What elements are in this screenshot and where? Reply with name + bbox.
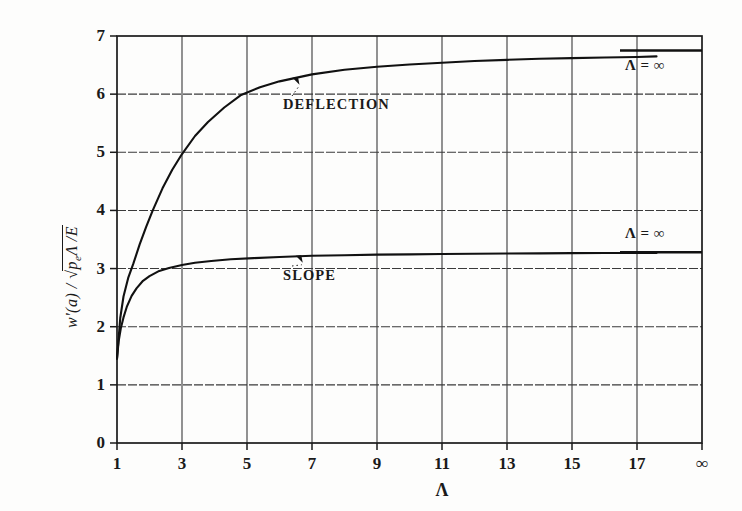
y-axis-ticks [110,36,117,443]
x-tick-label: ∞ [687,455,717,472]
radicand-p: p [63,261,80,270]
y-tick-label: 1 [83,376,105,393]
x-axis-title: Λ [412,480,472,501]
x-tick-label: 7 [297,455,327,472]
y-tick-label: 5 [83,143,105,160]
radicand-E: E [63,225,80,235]
y-tick-label: 2 [83,318,105,335]
y-tick-label: 4 [83,201,105,218]
horizontal-gridlines [117,94,702,385]
x-tick-label: 5 [232,455,262,472]
x-tick-label: 15 [557,455,587,472]
y-axis-radical-group: √peΛ /E [62,224,83,278]
x-tick-label: 11 [427,455,457,472]
radicand: peΛ /E [62,224,83,270]
x-tick-label: 17 [622,455,652,472]
asymptote-label-slope: Λ = ∞ [625,225,665,242]
vertical-gridlines [182,36,637,443]
figure-container: 01234567 1357911131517∞ Λ w'(a) / √peΛ /… [0,0,742,511]
x-tick-label: 3 [167,455,197,472]
y-tick-label: 3 [83,260,105,277]
asymptote-label-deflection: Λ = ∞ [625,57,665,74]
series-label-deflection: DEFLECTION [283,96,390,113]
x-axis-ticks [117,443,702,450]
x-tick-label: 9 [362,455,392,472]
x-tick-label: 1 [102,455,132,472]
y-tick-label: 6 [83,85,105,102]
leader-line [292,265,302,266]
series-label-slope: SLOPE [283,267,336,284]
x-tick-label: 13 [492,455,522,472]
y-tick-label: 0 [83,434,105,451]
y-axis-numerator: w'(a) [63,292,80,327]
chart-plot-area [0,0,742,511]
y-axis-slash: / [63,283,80,288]
radicand-lambda: Λ / [63,236,80,255]
plot-frame [117,36,702,443]
y-axis-title: w'(a) / √peΛ /E [62,224,83,327]
y-tick-label: 7 [83,27,105,44]
leader-arrowhead [293,77,300,85]
